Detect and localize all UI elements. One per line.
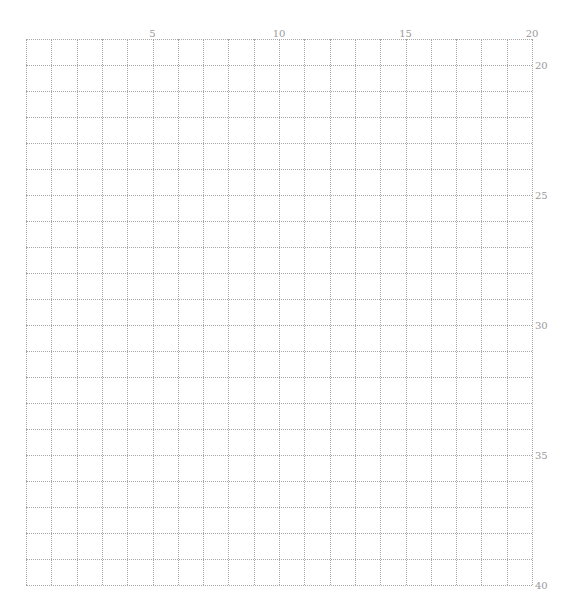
grid-horizontal-line <box>26 195 532 196</box>
grid-vertical-line <box>254 39 255 585</box>
grid-vertical-line <box>228 39 229 585</box>
grid-horizontal-line <box>26 481 532 482</box>
column-number-label: 15 <box>399 29 412 39</box>
column-number-label: 20 <box>526 29 539 39</box>
grid-horizontal-line <box>26 169 532 170</box>
grid-vertical-line <box>380 39 381 585</box>
grid-horizontal-line <box>26 91 532 92</box>
grid-horizontal-line <box>26 117 532 118</box>
grid-horizontal-line <box>26 273 532 274</box>
grid-vertical-line <box>51 39 52 585</box>
grid-vertical-line <box>431 39 432 585</box>
writing-grid <box>26 39 532 585</box>
grid-vertical-line <box>153 39 154 585</box>
grid-vertical-line <box>406 39 407 585</box>
row-number-label: 25 <box>535 191 548 201</box>
grid-horizontal-line <box>26 507 532 508</box>
grid-horizontal-line <box>26 299 532 300</box>
grid-horizontal-line <box>26 585 532 586</box>
grid-vertical-line <box>102 39 103 585</box>
row-number-label: 40 <box>535 581 548 591</box>
grid-vertical-line <box>279 39 280 585</box>
grid-vertical-line <box>304 39 305 585</box>
grid-vertical-line <box>178 39 179 585</box>
grid-vertical-line <box>532 39 533 585</box>
row-number-label: 35 <box>535 451 548 461</box>
grid-vertical-line <box>481 39 482 585</box>
grid-horizontal-line <box>26 39 532 40</box>
grid-horizontal-line <box>26 403 532 404</box>
grid-vertical-line <box>26 39 27 585</box>
column-number-label: 10 <box>273 29 286 39</box>
grid-vertical-line <box>77 39 78 585</box>
grid-horizontal-line <box>26 377 532 378</box>
grid-horizontal-line <box>26 429 532 430</box>
grid-vertical-line <box>355 39 356 585</box>
grid-horizontal-line <box>26 143 532 144</box>
grid-horizontal-line <box>26 559 532 560</box>
grid-vertical-line <box>507 39 508 585</box>
row-number-label: 30 <box>535 321 548 331</box>
grid-horizontal-line <box>26 533 532 534</box>
grid-paper-sheet: 51015202025303540 <box>0 0 571 612</box>
grid-horizontal-line <box>26 351 532 352</box>
grid-vertical-line <box>127 39 128 585</box>
row-number-label: 20 <box>535 61 548 71</box>
grid-vertical-line <box>456 39 457 585</box>
grid-vertical-line <box>203 39 204 585</box>
grid-horizontal-line <box>26 247 532 248</box>
grid-horizontal-line <box>26 221 532 222</box>
column-number-label: 5 <box>149 29 155 39</box>
grid-vertical-line <box>330 39 331 585</box>
grid-horizontal-line <box>26 65 532 66</box>
grid-horizontal-line <box>26 455 532 456</box>
grid-horizontal-line <box>26 325 532 326</box>
